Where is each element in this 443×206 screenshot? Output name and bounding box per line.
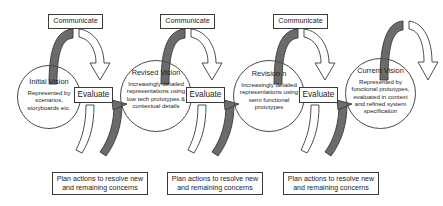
plan-box-2[interactable]: Plan actions to resolve new and remainin… — [167, 172, 263, 195]
plan-box-1[interactable]: Plan actions to resolve new and remainin… — [52, 172, 148, 195]
communicate-down-arrow-1 — [79, 29, 110, 80]
vision-body-4: Represented by functional prototypes, ev… — [346, 78, 415, 114]
plan-label-2: Plan actions to resolve new and remainin… — [170, 175, 260, 191]
vision-circle-1: Initial Vision Represented by scenarios,… — [17, 65, 81, 129]
diagram-canvas: Communicate Communicate Communicate Init… — [0, 0, 443, 206]
evaluate-label-3: Evaluate — [303, 90, 335, 99]
vision-circle-2: Revised Vision Increasingly detailed rep… — [120, 60, 192, 132]
vision-circle-4: Current Vision Represented by functional… — [345, 58, 416, 129]
communicate-box-3[interactable]: Communicate — [273, 14, 328, 29]
evaluate-label-2: Evaluate — [190, 90, 222, 99]
plan-box-3[interactable]: Plan actions to resolve new and remainin… — [283, 172, 379, 195]
communicate-down-arrow-2 — [191, 29, 222, 80]
final-down-arrow-4 — [409, 21, 438, 80]
evaluate-down-curve-1 — [76, 105, 94, 153]
plan-up-arrow-1 — [100, 104, 122, 156]
vision-circle-3: Revision n Increasingly detailed represe… — [233, 60, 305, 132]
evaluate-box-3[interactable]: Evaluate — [299, 87, 338, 103]
vision-body-3: Increasingly detailed representations us… — [234, 81, 304, 110]
communicate-box-2[interactable]: Communicate — [160, 14, 215, 29]
communicate-label-2: Communicate — [165, 17, 209, 25]
vision-title-1: Initial Vision — [29, 78, 68, 86]
evaluate-box-2[interactable]: Evaluate — [186, 87, 225, 103]
communicate-label-3: Communicate — [278, 17, 322, 25]
evaluate-label-1: Evaluate — [78, 90, 110, 99]
communicate-box-1[interactable]: Communicate — [48, 14, 103, 29]
plan-up-arrow-3 — [325, 104, 347, 156]
plan-label-1: Plan actions to resolve new and remainin… — [55, 175, 145, 191]
vision-title-4: Current Vision — [357, 67, 404, 75]
vision-title-2: Revised Vision — [132, 69, 181, 77]
vision-title-3: Revision n — [252, 70, 287, 78]
communicate-down-arrow-3 — [304, 29, 335, 80]
plan-label-3: Plan actions to resolve new and remainin… — [286, 175, 376, 191]
evaluate-down-curve-2 — [188, 105, 206, 153]
evaluate-down-curve-3 — [301, 105, 319, 153]
plan-up-arrow-2 — [212, 104, 234, 156]
evaluate-box-1[interactable]: Evaluate — [74, 87, 113, 103]
vision-body-1: Represented by scenarios, storyboards et… — [18, 89, 80, 111]
vision-body-2: Increasingly detailed representations us… — [121, 80, 191, 109]
communicate-label-1: Communicate — [53, 17, 97, 25]
